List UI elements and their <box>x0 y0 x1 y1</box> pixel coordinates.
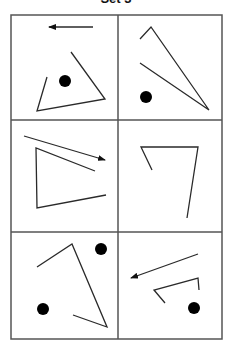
open-polyline-shape <box>154 278 199 303</box>
arrow-icon <box>131 254 198 278</box>
panel-1 <box>37 27 105 111</box>
panel-contents <box>24 27 209 327</box>
black-dot <box>140 91 152 103</box>
panel-3 <box>24 136 106 208</box>
black-dot <box>95 243 107 255</box>
panel-5 <box>37 243 107 327</box>
black-dot <box>59 75 71 87</box>
panel-grid-figure <box>0 0 232 354</box>
panel-6 <box>131 254 200 314</box>
panel-4 <box>141 147 198 218</box>
grid-lines <box>11 15 222 339</box>
open-polyline-shape <box>141 147 198 218</box>
black-dot <box>37 303 49 315</box>
panel-2 <box>140 27 209 110</box>
open-polyline-shape <box>37 52 105 111</box>
black-dot <box>188 302 200 314</box>
grid-border <box>11 15 222 339</box>
open-polyline-shape <box>37 244 107 327</box>
